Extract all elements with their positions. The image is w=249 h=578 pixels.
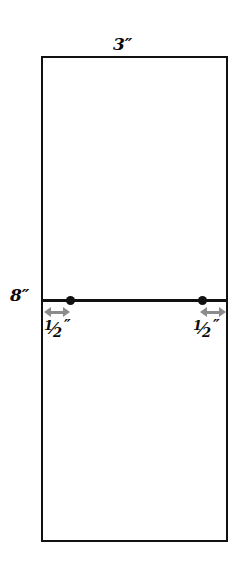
top-dimension-label: 3″ (113, 36, 132, 53)
right-offset-denominator: 2 (202, 325, 211, 340)
right-offset-fraction: 1⁄2 (192, 319, 213, 337)
left-dimension-label: 8″ (10, 287, 29, 304)
right-offset-numerator: 1 (193, 318, 202, 333)
right-point-dot (198, 296, 207, 305)
arrow-right-head-icon (219, 307, 226, 317)
right-offset-label: 1⁄2 ″ (192, 319, 220, 337)
left-offset-label: 1⁄2 ″ (43, 319, 71, 337)
left-offset-denominator: 2 (53, 325, 62, 340)
right-offset-prime: ″ (213, 316, 220, 334)
left-offset-numerator: 1 (44, 318, 53, 333)
diagram-canvas: 3″ 8″ 1⁄2 ″ 1⁄2 ″ (0, 0, 249, 578)
left-offset-prime: ″ (64, 316, 71, 334)
left-point-dot (66, 296, 75, 305)
left-offset-fraction: 1⁄2 (43, 319, 64, 337)
